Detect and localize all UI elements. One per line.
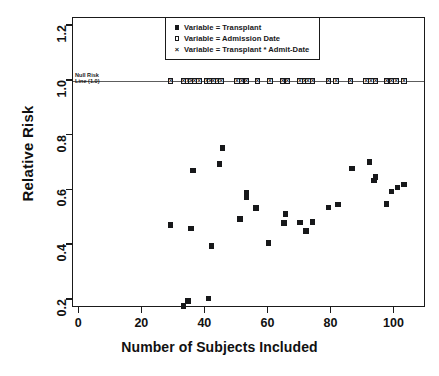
legend-entry: Variable = Admission Date [170,33,314,44]
data-point-transplant [266,240,272,246]
x-axis-tick-label: 0 [53,316,103,330]
data-point-transplant-admit-date: × [168,78,174,84]
y-axis-tick-label: 1.0 [55,80,69,108]
data-point-transplant [310,219,316,225]
legend-cross-icon: × [170,46,184,54]
data-point-transplant [384,201,390,207]
data-point-transplant [237,216,243,222]
chart-legend: Variable = TransplantVariable = Admissio… [165,17,320,60]
x-axis-tick-mark [204,307,206,313]
y-axis-tick-label: 0.8 [55,135,69,163]
data-point-transplant-admit-date: × [393,78,399,84]
x-axis-tick-label: 80 [305,316,355,330]
data-point-transplant-admit-date: × [347,78,353,84]
null-risk-annotation: Null Risk Line (1.0) [75,72,100,85]
scatter-plot-figure: Relative Risk Number of Subjects Include… [0,0,439,376]
x-axis-tick-label: 60 [242,316,292,330]
data-point-transplant-admit-date: × [284,78,290,84]
data-point-transplant [168,222,174,228]
data-point-transplant-admit-date: × [401,78,407,84]
data-point-transplant [181,303,187,309]
legend-symbol-glyph [175,25,179,29]
data-point-transplant [206,296,212,302]
x-axis-tick-label: 100 [368,316,418,330]
data-point-transplant-admit-date: × [267,78,273,84]
data-point-transplant-admit-date: × [325,78,331,84]
data-point-transplant-admit-date: × [333,78,339,84]
data-point-transplant [389,189,395,195]
legend-entry-label: Variable = Transplant * Admit-Date [184,45,309,54]
data-point-transplant-admit-date: × [243,78,249,84]
legend-symbol-glyph [175,36,179,40]
x-axis-tick-mark [78,307,80,313]
data-point-transplant [326,205,332,211]
data-point-transplant [281,220,287,226]
legend-entry-label: Variable = Admission Date [184,34,280,43]
data-point-transplant [367,159,373,165]
data-point-transplant [217,161,223,167]
data-point-transplant [373,174,379,180]
data-point-transplant-admit-date: × [196,78,202,84]
data-point-transplant [220,145,226,151]
data-point-transplant [188,226,194,232]
x-axis-tick-label: 20 [116,316,166,330]
y-axis-tick-label: 0.6 [55,189,69,217]
null-risk-annotation-line2: Line (1.0) [75,78,100,84]
x-axis-title: Number of Subjects Included [0,339,439,355]
legend-entry: Variable = Transplant [170,22,314,33]
data-point-transplant-admit-date: × [254,78,260,84]
data-point-transplant [244,190,250,196]
x-axis-tick-mark [393,307,395,313]
data-point-transplant-admit-date: × [218,78,224,84]
data-point-transplant [190,168,196,174]
data-point-transplant [283,211,289,217]
plot-area: Null Risk Line (1.0) ×××××××××××××××××××… [72,17,425,307]
data-point-transplant [209,243,215,249]
data-point-transplant [253,205,259,211]
data-point-transplant [335,202,341,208]
x-axis-tick-mark [141,307,143,313]
data-point-transplant [297,220,303,226]
data-point-transplant-admit-date: × [373,78,379,84]
x-axis-tick-mark [267,307,269,313]
legend-open-square-icon [170,36,184,40]
legend-entry: ×Variable = Transplant * Admit-Date [170,44,314,55]
data-point-transplant [349,166,355,172]
data-point-transplant-admit-date: × [310,78,316,84]
y-axis-title: Relative Risk [19,54,36,254]
y-axis-tick-label: 1.2 [55,25,69,53]
data-point-transplant [303,228,309,234]
data-point-transplant [401,182,407,188]
x-axis-tick-mark [330,307,332,313]
x-axis-tick-label: 40 [179,316,229,330]
y-axis-tick-label: 0.4 [55,244,69,272]
legend-filled-square-icon [170,25,184,29]
data-point-transplant [185,298,191,304]
legend-symbol-glyph: × [175,46,179,54]
data-point-transplant [395,185,401,191]
legend-entry-label: Variable = Transplant [184,23,261,32]
